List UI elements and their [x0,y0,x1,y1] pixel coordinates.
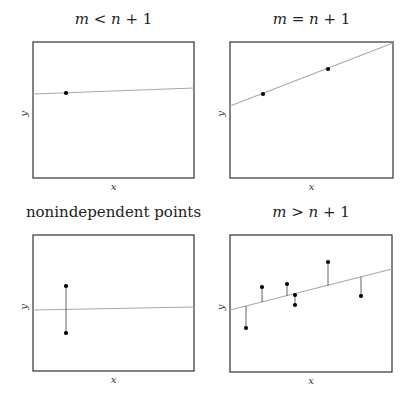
data-point [326,67,330,71]
y-axis-label: y [18,111,29,118]
x-axis-label: x [111,181,117,192]
panel-title: m = n + 1 [273,10,351,28]
y-axis-label: y [215,304,226,311]
plot-frame [33,42,194,178]
data-point [293,293,297,297]
panel-title: nonindependent points [26,203,201,221]
plot-frame [33,235,194,371]
fit-line [33,307,194,310]
data-point [326,260,330,264]
panel-1: m < n + 1xy [18,10,194,192]
panel-2: m = n + 1xy [215,10,393,192]
data-point [261,92,265,96]
x-axis-label: x [309,181,315,192]
data-point [293,303,297,307]
data-point [64,91,68,95]
data-point [64,331,68,335]
y-axis-label: y [215,111,226,118]
fit-line [230,43,393,106]
data-point [64,284,68,288]
panel-4: m > n + 1xy [215,203,392,386]
x-axis-label: x [308,375,314,386]
data-point [359,294,363,298]
panel-3: nonindependent pointsxy [18,203,201,385]
data-point [285,282,289,286]
x-axis-label: x [111,374,117,385]
figure-canvas: m < n + 1xym = n + 1xynonindependent poi… [0,0,416,402]
fit-line [33,88,194,94]
fit-line [230,269,392,310]
data-point [244,326,248,330]
panel-title: m > n + 1 [272,203,350,221]
y-axis-label: y [18,304,29,311]
data-point [260,285,264,289]
plot-frame [230,42,393,178]
panel-title: m < n + 1 [75,10,153,28]
